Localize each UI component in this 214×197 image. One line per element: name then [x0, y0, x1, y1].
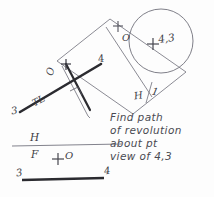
note-line-2: of revolution	[110, 124, 182, 136]
right-angle-symbol	[70, 87, 82, 95]
label-point-view-43: 4,3	[157, 31, 175, 45]
label-fold-h-1-h: H	[133, 89, 143, 101]
true-length-line-3-4	[20, 64, 101, 112]
label-fold-h-f-h: H	[30, 131, 39, 143]
label-fold-h-f-f: F	[31, 148, 38, 160]
fold-line-h-f	[12, 144, 122, 146]
front-line-34-stroke	[22, 178, 104, 180]
plus-mark-o-circle	[113, 21, 123, 32]
fold-line-h-f-stroke	[12, 144, 122, 146]
engineering-drawing-sheet: O TL 3 4 O 4,3 H 1 H F O 3 4 Find path o…	[0, 0, 214, 197]
tl-line-stroke	[20, 64, 101, 112]
label-point-3-front: 3	[15, 167, 23, 179]
right-angle-square-stroke	[70, 87, 82, 95]
inner-panel-corner	[88, 116, 90, 118]
frame-edge-upper-right	[110, 19, 186, 72]
label-point-o-front: O	[65, 150, 73, 161]
plus-mark-o-front	[52, 153, 64, 165]
note-line-4: view of 4,3	[110, 150, 172, 162]
front-view-line-3-4	[22, 178, 104, 180]
note-line-1: Find path	[110, 111, 163, 123]
note-line-3: about pt	[110, 137, 158, 149]
label-point-o-circle: O	[122, 32, 130, 43]
label-point-4-front: 4	[103, 165, 111, 177]
